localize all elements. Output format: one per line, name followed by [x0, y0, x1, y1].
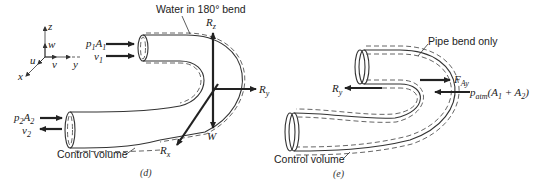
axis-x-label: x	[17, 70, 23, 82]
coordinate-axes: z w u v y x	[17, 20, 80, 82]
patm-label: patm(A1 + A2)	[469, 86, 529, 101]
water-in-bend-label: Water in 180° bend	[156, 3, 246, 15]
axis-y-label: y	[72, 58, 78, 70]
forces-e: Ry FAy patm(A1 + A2)	[331, 73, 529, 101]
control-volume-label-d: Control volume	[57, 148, 128, 160]
pipe-bend-e	[285, 46, 459, 155]
figure-d: z w u v y x p1A1 v1	[13, 3, 270, 179]
axis-z-label: z	[47, 20, 53, 32]
axis-u-label: u	[30, 54, 36, 66]
axis-w-label: w	[48, 38, 56, 50]
ry-label: Ry	[258, 83, 270, 98]
outlet-arrows: p2A2 v2	[13, 111, 62, 139]
axis-v-label: v	[52, 58, 57, 70]
rx-label: Rx	[159, 144, 171, 159]
figure-e: Ry FAy patm(A1 + A2) Pipe bend only Cont…	[274, 35, 529, 180]
pipe-bend-free-body-diagrams: z w u v y x p1A1 v1	[0, 0, 544, 196]
inlet-velocity-label: v1	[94, 50, 103, 65]
weight-label: W	[207, 130, 217, 142]
caption-e: (e)	[333, 168, 345, 180]
rz-label: Rz	[205, 16, 217, 31]
ry-label-e: Ry	[331, 82, 343, 97]
caption-d: (d)	[140, 167, 152, 179]
control-volume-label-e: Control volume	[274, 153, 345, 165]
pipe-bend-only-label: Pipe bend only	[428, 35, 498, 47]
outlet-velocity-label: v2	[22, 124, 31, 139]
fay-label: FAy	[453, 73, 469, 88]
inlet-arrows: p1A1 v1	[85, 37, 134, 65]
